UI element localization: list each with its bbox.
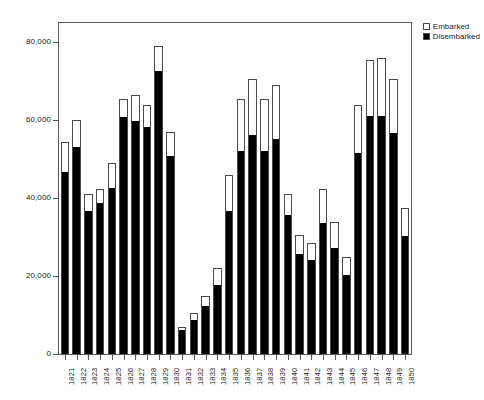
bar-segment-embarked[interactable] [108,163,117,354]
bar-segment-disembarked[interactable] [308,260,315,354]
bar-group[interactable] [260,23,269,354]
bar-segment-embarked[interactable] [307,243,316,354]
bar-group[interactable] [131,23,140,354]
x-axis-tick-mark [253,355,254,360]
bar-segment-embarked[interactable] [284,194,293,354]
bar-group[interactable] [166,23,175,354]
bar-segment-embarked[interactable] [72,120,81,354]
bar-segment-disembarked[interactable] [62,172,69,354]
bar-segment-embarked[interactable] [154,46,163,354]
bar-segment-embarked[interactable] [190,313,199,354]
bar-group[interactable] [284,23,293,354]
bar-segment-embarked[interactable] [61,142,70,354]
bar-segment-disembarked[interactable] [378,116,385,354]
bar-segment-embarked[interactable] [295,235,304,354]
bar-segment-disembarked[interactable] [261,151,268,354]
bar-group[interactable] [190,23,199,354]
bar-group[interactable] [237,23,246,354]
bar-segment-disembarked[interactable] [179,330,186,354]
bar-segment-disembarked[interactable] [144,127,151,354]
bar-segment-embarked[interactable] [248,79,257,354]
bar-segment-embarked[interactable] [178,327,187,354]
bar-segment-disembarked[interactable] [367,116,374,354]
bar-group[interactable] [96,23,105,354]
bar-group[interactable] [143,23,152,354]
bar-segment-disembarked[interactable] [320,223,327,354]
bar-segment-embarked[interactable] [119,99,128,354]
bar-group[interactable] [248,23,257,354]
bar-segment-disembarked[interactable] [132,121,139,354]
bar-segment-embarked[interactable] [319,189,328,355]
bar-segment-embarked[interactable] [401,208,410,354]
bar-segment-disembarked[interactable] [97,203,104,354]
bar-group[interactable] [401,23,410,354]
bar-group[interactable] [213,23,222,354]
x-axis-tick-mark [405,355,406,360]
bar-segment-embarked[interactable] [131,95,140,354]
bar-segment-embarked[interactable] [143,105,152,354]
bar-segment-disembarked[interactable] [73,147,80,354]
bar-segment-embarked[interactable] [389,79,398,354]
bar-group[interactable] [201,23,210,354]
bar-segment-disembarked[interactable] [202,306,209,354]
bar-group[interactable] [377,23,386,354]
bar-segment-embarked[interactable] [354,105,363,354]
bar-segment-disembarked[interactable] [155,71,162,354]
bar-group[interactable] [319,23,328,354]
x-axis-tick-mark [170,355,171,360]
bar-segment-embarked[interactable] [166,132,175,354]
bar-segment-disembarked[interactable] [355,153,362,354]
bar-group[interactable] [84,23,93,354]
bar-segment-embarked[interactable] [84,194,93,354]
bar-segment-disembarked[interactable] [331,248,338,354]
bar-segment-disembarked[interactable] [226,211,233,354]
bar-segment-disembarked[interactable] [238,151,245,354]
bar-segment-embarked[interactable] [377,58,386,354]
bar-segment-disembarked[interactable] [343,275,350,354]
bar-group[interactable] [72,23,81,354]
bar-group[interactable] [272,23,281,354]
bar-group[interactable] [108,23,117,354]
bar-segment-disembarked[interactable] [390,133,397,354]
legend-label-embarked: Embarked [433,22,469,31]
bar-segment-embarked[interactable] [366,60,375,354]
bar-segment-disembarked[interactable] [402,236,409,354]
bar-group[interactable] [389,23,398,354]
bar-segment-disembarked[interactable] [167,156,174,354]
bar-segment-disembarked[interactable] [109,188,116,354]
y-axis-tick: 0 [46,349,58,359]
bar-segment-embarked[interactable] [260,99,269,354]
bar-segment-embarked[interactable] [272,85,281,354]
bar-segment-embarked[interactable] [213,268,222,354]
bar-group[interactable] [225,23,234,354]
bar-group[interactable] [330,23,339,354]
x-axis-tick-label: 1837 [256,368,264,386]
bar-segment-embarked[interactable] [342,257,351,354]
x-axis-tick-label: 1841 [303,368,311,386]
bar-segment-disembarked[interactable] [214,285,221,354]
bar-group[interactable] [154,23,163,354]
bar-segment-disembarked[interactable] [120,117,127,354]
bar-group[interactable] [354,23,363,354]
bar-group[interactable] [307,23,316,354]
bar-segment-disembarked[interactable] [296,254,303,354]
x-axis-tick-label: 1839 [279,368,287,386]
bar-segment-embarked[interactable] [96,189,105,355]
bar-group[interactable] [295,23,304,354]
bar-group[interactable] [342,23,351,354]
bar-group[interactable] [119,23,128,354]
x-axis-tick-label: 1850 [408,368,416,386]
bar-segment-embarked[interactable] [330,222,339,354]
bar-segment-embarked[interactable] [237,99,246,354]
bar-segment-disembarked[interactable] [285,215,292,354]
bar-segment-disembarked[interactable] [249,135,256,354]
bar-segment-disembarked[interactable] [85,211,92,354]
y-axis-tick-label: 40,000 [26,193,51,203]
bar-group[interactable] [61,23,70,354]
bar-group[interactable] [366,23,375,354]
bar-segment-embarked[interactable] [201,296,210,354]
bar-segment-embarked[interactable] [225,175,234,354]
bar-segment-disembarked[interactable] [273,139,280,354]
bar-segment-disembarked[interactable] [191,320,198,354]
bar-group[interactable] [178,23,187,354]
